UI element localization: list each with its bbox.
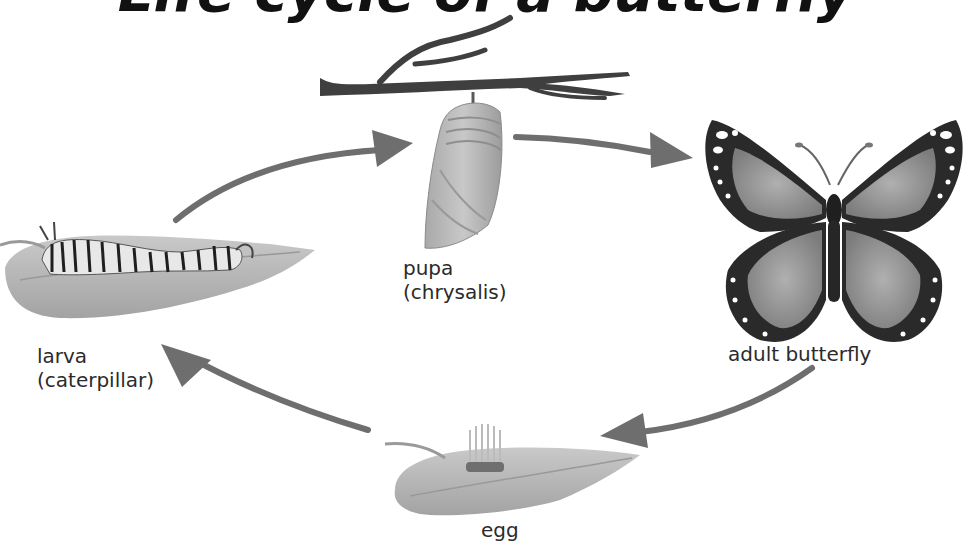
arrowhead-pupa-icon (372, 130, 413, 167)
label-larva-name: larva (37, 344, 154, 368)
arrow-larva-to-pupa-icon (176, 150, 380, 220)
arrowhead-egg-icon (600, 413, 648, 448)
label-pupa-alt: (chrysalis) (403, 280, 507, 304)
caterpillar-icon (40, 222, 253, 275)
label-egg-name: egg (481, 518, 519, 542)
egg-cluster-icon (466, 424, 504, 472)
label-larva: larva (caterpillar) (37, 344, 154, 392)
label-adult-name: adult butterfly (728, 342, 871, 366)
label-adult-butterfly: adult butterfly (728, 342, 871, 366)
branch-icon (320, 18, 630, 98)
egg-leaf-icon (385, 444, 640, 516)
arrow-adult-to-egg-icon (640, 368, 812, 432)
arrowhead-larva-icon (161, 344, 211, 387)
arrowhead-adult-icon (650, 132, 693, 168)
label-larva-alt: (caterpillar) (37, 368, 154, 392)
adult-butterfly-icon (705, 120, 962, 342)
arrow-pupa-to-adult-icon (516, 137, 650, 152)
pupa-chrysalis-icon (425, 92, 502, 248)
life-cycle-diagram: Life cycle of a butterfly (0, 0, 971, 553)
label-pupa-name: pupa (403, 256, 507, 280)
label-pupa: pupa (chrysalis) (403, 256, 507, 304)
label-egg: egg (481, 518, 519, 542)
arrow-egg-to-larva-icon (185, 355, 368, 430)
